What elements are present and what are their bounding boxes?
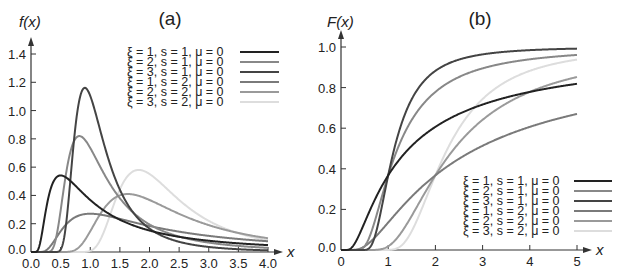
y-tick-label: 1.0 [8, 104, 26, 119]
x-tick-label: 0 [337, 254, 344, 269]
x-tick-label: 3 [479, 254, 486, 269]
y-tick-label: 0.0 [8, 242, 26, 257]
series-curve [31, 136, 268, 252]
y-tick-label: 0.4 [8, 188, 26, 203]
panel-a: (a) f(x) x0.00.51.01.52.02.53.03.54.00.0… [8, 8, 295, 271]
y-tick-label: 0.2 [318, 202, 336, 217]
x-tick-label: 2.0 [140, 256, 158, 271]
panel-b-ylabel: F(x) [327, 13, 354, 30]
legend-label: ξ = 3, s = 2, μ = 0 [463, 224, 560, 238]
figure: (a) f(x) x0.00.51.01.52.02.53.03.54.00.0… [0, 0, 619, 279]
x-axis-arrow-icon [274, 249, 283, 255]
x-tick-label: 2 [432, 254, 439, 269]
y-axis-arrow-icon [338, 30, 344, 39]
panel-b-title: (b) [468, 8, 491, 29]
y-tick-label: 1.4 [8, 47, 26, 62]
x-axis-label: x [286, 243, 295, 260]
x-axis-arrow-icon [583, 247, 592, 253]
y-tick-label: 1.2 [8, 75, 26, 90]
y-tick-label: 0.8 [8, 132, 26, 147]
x-tick-label: 3.0 [200, 256, 218, 271]
x-tick-label: 1.0 [81, 256, 99, 271]
y-tick-label: 0.6 [8, 160, 26, 175]
y-tick-label: 0.4 [318, 162, 336, 177]
x-tick-label: 3.5 [229, 256, 247, 271]
x-tick-label: 4 [526, 254, 533, 269]
x-tick-label: 1 [385, 254, 392, 269]
x-axis-label: x [595, 241, 604, 258]
panel-b: (b) F(x) x0123450.00.20.40.60.81.0 ξ = 1… [318, 8, 612, 269]
x-tick-label: 4.0 [259, 256, 277, 271]
y-tick-label: 1.0 [318, 40, 336, 55]
panel-a-legend: ξ = 1, s = 1, μ = 0ξ = 2, s = 1, μ = 0ξ … [127, 45, 279, 109]
y-tick-label: 0.6 [318, 121, 336, 136]
y-tick-label: 0.8 [318, 81, 336, 96]
y-tick-label: 0.2 [8, 217, 26, 232]
x-tick-label: 0.5 [52, 256, 70, 271]
y-axis-arrow-icon [28, 37, 34, 46]
legend-label: ξ = 3, s = 2, μ = 0 [127, 95, 224, 109]
x-tick-label: 5 [573, 254, 580, 269]
panel-a-ylabel: f(x) [19, 13, 41, 30]
x-tick-label: 0.0 [22, 256, 40, 271]
x-tick-label: 1.5 [111, 256, 129, 271]
panel-a-curves [31, 88, 268, 252]
panel-b-legend: ξ = 1, s = 1, μ = 0ξ = 2, s = 1, μ = 0ξ … [463, 174, 612, 238]
x-tick-label: 2.5 [170, 256, 188, 271]
y-tick-label: 0.0 [318, 240, 336, 255]
panel-a-title: (a) [158, 8, 181, 29]
